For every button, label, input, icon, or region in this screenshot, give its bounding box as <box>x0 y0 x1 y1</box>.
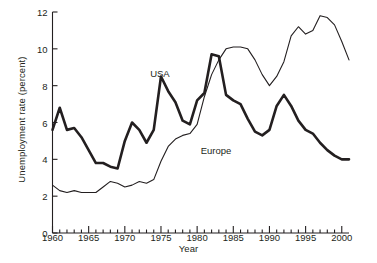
y-tick-label: 2 <box>26 191 48 202</box>
x-axis-title: Year <box>0 243 377 254</box>
series-annotation-europe: Europe <box>201 145 232 156</box>
series-annotation-usa: USA <box>150 68 170 79</box>
y-tick-label: 10 <box>26 43 48 54</box>
series-line-europe <box>53 16 350 193</box>
chart-series-lines <box>53 16 350 193</box>
y-tick-label: 6 <box>26 117 48 128</box>
x-tick-label: 1965 <box>78 232 99 243</box>
x-tick-label: 1975 <box>150 232 171 243</box>
x-tick-label: 2000 <box>331 232 352 243</box>
y-tick-label: 12 <box>26 7 48 18</box>
x-tick-label: 1985 <box>223 232 244 243</box>
unemployment-rate-chart: Unemployment rate (percent) Year 1960196… <box>0 0 377 263</box>
y-tick-label: 0 <box>26 228 48 239</box>
chart-plot-area <box>0 0 377 263</box>
y-tick-label: 4 <box>26 154 48 165</box>
chart-axes <box>53 12 350 233</box>
x-tick-label: 1990 <box>259 232 280 243</box>
x-tick-label: 1995 <box>295 232 316 243</box>
x-tick-label: 1970 <box>114 232 135 243</box>
x-tick-label: 1980 <box>187 232 208 243</box>
y-tick-label: 8 <box>26 80 48 91</box>
